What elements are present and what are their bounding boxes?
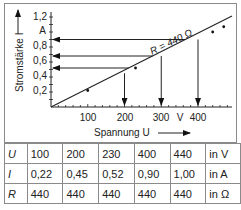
row-symbol: I (5, 164, 28, 184)
svg-text:0,4: 0,4 (33, 70, 47, 81)
row-symbol: U (5, 144, 28, 164)
x-axis-label: Spannung U (94, 127, 150, 138)
svg-text:100: 100 (80, 112, 97, 123)
table-cell: 440 (27, 184, 63, 204)
table-cell: 100 (27, 144, 63, 164)
table-row: R440440440440440in Ω (5, 184, 241, 204)
svg-text:400: 400 (190, 112, 207, 123)
svg-text:200: 200 (117, 112, 134, 123)
table-cell: 440 (63, 184, 99, 204)
table-row: I0,220,450,520,901,00in A (5, 164, 241, 184)
x-tick-labels: 100 200 300 V 400 (80, 112, 207, 123)
table-cell: 0,90 (134, 164, 170, 184)
resistance-annotation: R = 440 Ω (148, 27, 194, 57)
row-unit: in A (206, 164, 241, 184)
table-cell: 0,45 (63, 164, 99, 184)
table-cell: 0,52 (99, 164, 135, 184)
svg-text:1,2: 1,2 (33, 11, 47, 22)
y-tick-labels: 0,2 0,4 0,6 0,8 A 1,2 (33, 11, 47, 96)
table-cell: 440 (170, 144, 206, 164)
svg-text:0,6: 0,6 (33, 55, 47, 66)
table-cell: 400 (134, 144, 170, 164)
svg-text:0,2: 0,2 (33, 85, 47, 96)
table-row: U100200230400440in V (5, 144, 241, 164)
data-points (86, 25, 225, 92)
table-cell: 440 (134, 184, 170, 204)
row-unit: in V (206, 144, 241, 164)
values-table: U100200230400440in VI0,220,450,520,901,0… (4, 143, 241, 204)
table-cell: 200 (63, 144, 99, 164)
y-axis-label: Stromstärke I (14, 33, 25, 92)
table-cell: 440 (99, 184, 135, 204)
table-cell: 440 (170, 184, 206, 204)
row-unit: in Ω (206, 184, 241, 204)
svg-text:300: 300 (153, 112, 170, 123)
table-cell: 230 (99, 144, 135, 164)
table-cell: 1,00 (170, 164, 206, 184)
svg-text:V: V (177, 112, 184, 123)
svg-text:0,8: 0,8 (33, 40, 47, 51)
svg-text:A: A (39, 25, 46, 36)
row-symbol: R (5, 184, 28, 204)
table-cell: 0,22 (27, 164, 63, 184)
chart-plot: 0,2 0,4 0,6 0,8 A 1,2 100 200 300 V 400 … (0, 0, 241, 143)
resistance-line (51, 16, 232, 107)
